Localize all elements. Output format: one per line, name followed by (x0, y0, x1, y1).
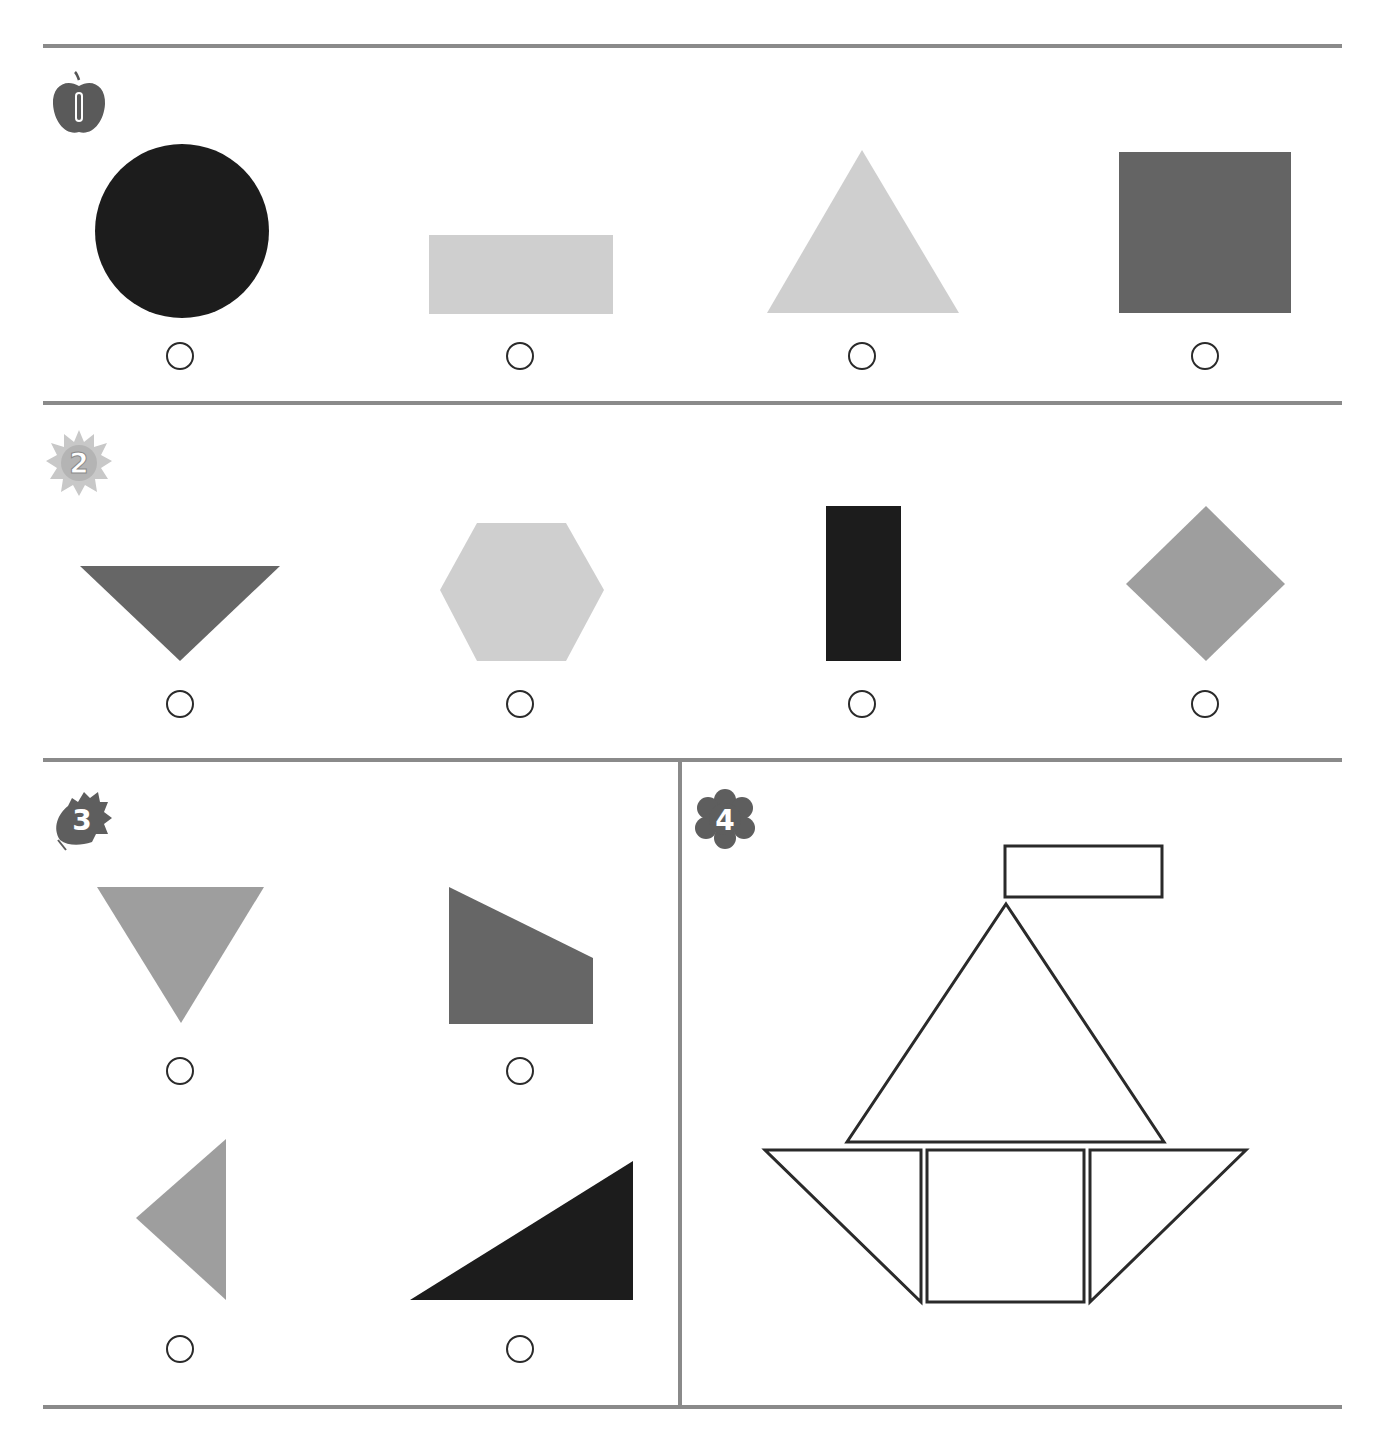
q1-option-1-circle (95, 144, 269, 318)
q2-answer-radio-3[interactable] (848, 690, 876, 718)
q2-option-4-square (1126, 506, 1285, 661)
q3-option-1-triangle (97, 887, 264, 1023)
q3-option-2-trapezoid (449, 887, 593, 1024)
boat-hull-center (927, 1150, 1084, 1302)
worksheet-shapes (0, 0, 1387, 1432)
q2-option-3-rectangle (826, 506, 901, 661)
q1-answer-radio-4[interactable] (1191, 342, 1219, 370)
q2-answer-radio-1[interactable] (166, 690, 194, 718)
q3-option-3-triangle (136, 1139, 226, 1300)
q3-answer-radio-4[interactable] (506, 1335, 534, 1363)
boat-hull-right (1090, 1150, 1246, 1302)
q1-option-3-triangle (767, 150, 959, 313)
q3-answer-radio-2[interactable] (506, 1057, 534, 1085)
q2-answer-radio-4[interactable] (1191, 690, 1219, 718)
q3-option-4-triangle (410, 1161, 633, 1300)
q2-option-2-hexagon (440, 523, 604, 661)
q1-option-4-square (1119, 152, 1291, 313)
boat-flag (1005, 846, 1162, 897)
q1-option-2-rectangle (429, 235, 613, 314)
q2-answer-radio-2[interactable] (506, 690, 534, 718)
q3-answer-radio-3[interactable] (166, 1335, 194, 1363)
q1-answer-radio-1[interactable] (166, 342, 194, 370)
q1-answer-radio-3[interactable] (848, 342, 876, 370)
boat-sail (847, 904, 1164, 1142)
q3-answer-radio-1[interactable] (166, 1057, 194, 1085)
boat-hull-left (765, 1150, 921, 1302)
q2-option-1-triangle (80, 566, 280, 661)
q1-answer-radio-2[interactable] (506, 342, 534, 370)
